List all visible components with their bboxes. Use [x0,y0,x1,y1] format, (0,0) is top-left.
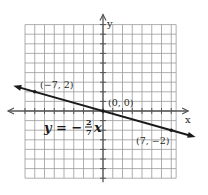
line-arrow-right-icon [187,132,196,138]
data-point [33,90,37,94]
equation-denominator: 7 [86,127,92,137]
equation-lhs: y = − [43,120,82,135]
y-axis-label: y [106,18,113,29]
point-label-7-neg2: (7, −2) [136,135,170,146]
coordinate-plane: y x (−7, 2) (0, 0) (7, −2) y = − 2 7 x [0,0,208,195]
point-label-neg7-2: (−7, 2) [40,79,74,90]
line-arrow-left-icon [13,85,22,91]
equation-numerator: 2 [86,117,92,127]
equation-label: y = − 2 7 x [43,117,102,137]
point-label-origin: (0, 0) [108,97,134,108]
data-point [101,109,105,113]
data-point [169,128,173,132]
equation-variable: x [93,120,102,135]
x-axis-label: x [185,114,191,125]
